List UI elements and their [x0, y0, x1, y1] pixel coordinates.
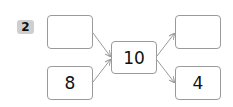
- center-box: 10: [111, 41, 157, 74]
- arrow-top-left-to-center: [93, 33, 110, 56]
- output-box-bottom[interactable]: 4: [175, 66, 221, 100]
- input-box-top[interactable]: [47, 15, 93, 49]
- problem-number-badge: 2: [17, 20, 34, 34]
- arrow-bottom-left-to-center: [93, 60, 110, 82]
- arrow-center-to-bottom-right: [157, 60, 174, 82]
- input-box-bottom[interactable]: 8: [47, 66, 93, 100]
- arrow-center-to-top-right: [157, 34, 174, 56]
- output-box-top[interactable]: [175, 15, 221, 49]
